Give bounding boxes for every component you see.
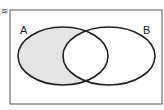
venn-diagram [0, 0, 164, 110]
set-a-label: A [20, 25, 27, 36]
set-b-label: B [143, 25, 150, 36]
shaded-region-a-minus-b [0, 0, 164, 110]
